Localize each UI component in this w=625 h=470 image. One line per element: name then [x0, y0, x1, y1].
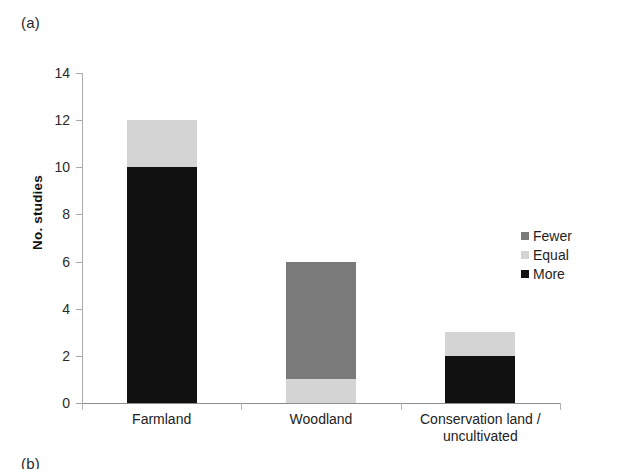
- bar-segment-more: [445, 356, 515, 403]
- x-axis-tick: [401, 403, 402, 410]
- bar-segment-fewer: [286, 262, 356, 380]
- legend-swatch-icon: [521, 270, 529, 278]
- x-axis-category-label-line: Conservation land /: [401, 411, 560, 428]
- x-axis-tick: [241, 403, 242, 410]
- legend-swatch-icon: [521, 251, 529, 259]
- x-axis-line: [82, 403, 560, 404]
- y-axis-tick-label: 2: [42, 349, 70, 363]
- plot-area: [82, 73, 560, 403]
- x-axis-category-label-line: Farmland: [82, 411, 241, 428]
- bar-3: [445, 332, 515, 403]
- y-axis-tick-label: 6: [42, 255, 70, 269]
- panel-label-b: (b): [21, 455, 40, 469]
- legend-item-fewer: Fewer: [521, 226, 572, 245]
- x-axis-tick: [82, 403, 83, 410]
- x-axis-category-label: Conservation land /uncultivated: [401, 411, 560, 445]
- bar-segment-equal: [445, 332, 515, 356]
- x-axis-category-label-line: Woodland: [241, 411, 400, 428]
- x-axis-category-label: Woodland: [241, 411, 400, 428]
- chart-legend: FewerEqualMore: [521, 226, 572, 283]
- bar-1: [127, 120, 197, 403]
- legend-item-label: Fewer: [533, 229, 572, 243]
- y-axis-tick-label: 8: [42, 207, 70, 221]
- bar-2: [286, 262, 356, 403]
- bar-segment-equal: [286, 379, 356, 403]
- x-axis-category-label: Farmland: [82, 411, 241, 428]
- legend-swatch-icon: [521, 232, 529, 240]
- y-axis-tick-label: 0: [42, 396, 70, 410]
- y-axis-tick-label: 14: [42, 66, 70, 80]
- panel-label-a: (a): [21, 14, 40, 31]
- bar-segment-equal: [127, 120, 197, 167]
- x-axis-category-label-line: uncultivated: [401, 428, 560, 445]
- y-axis-tick-label: 10: [42, 160, 70, 174]
- x-axis-tick: [560, 403, 561, 410]
- legend-item-more: More: [521, 264, 572, 283]
- legend-item-label: More: [533, 267, 565, 281]
- y-axis-tick-label: 4: [42, 302, 70, 316]
- legend-item-equal: Equal: [521, 245, 572, 264]
- y-axis-tick-label: 12: [42, 113, 70, 127]
- legend-item-label: Equal: [533, 248, 569, 262]
- bar-segment-more: [127, 167, 197, 403]
